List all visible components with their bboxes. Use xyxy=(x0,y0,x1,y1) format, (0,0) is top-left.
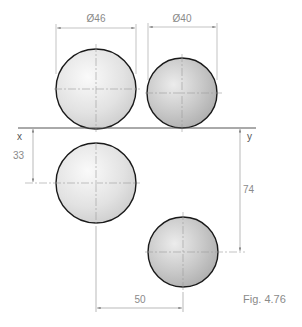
y-label: y xyxy=(247,131,252,142)
dimension-label-46: Ø46 xyxy=(87,13,106,24)
dimension-label-74: 74 xyxy=(243,184,255,195)
dimension-label-50: 50 xyxy=(134,294,146,305)
technical-drawing: Ø46 Ø40 x y 33 74 xyxy=(0,0,302,327)
figure-caption: Fig. 4.76 xyxy=(243,293,286,305)
dimension-label-40: Ø40 xyxy=(173,13,192,24)
dimension-label-33: 33 xyxy=(13,150,25,161)
x-label: x xyxy=(17,131,22,142)
